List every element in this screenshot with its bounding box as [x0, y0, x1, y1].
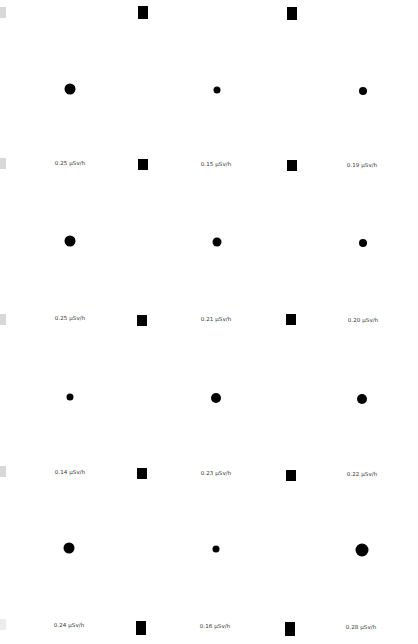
square-marker [137, 468, 147, 479]
dose-dot [64, 543, 75, 554]
dose-label: 0.15 µSv/h [201, 161, 232, 167]
dose-label: 0.14 µSv/h [55, 469, 86, 475]
dose-label: 0.23 µSv/h [201, 470, 232, 476]
dose-label: 0.16 µSv/h [200, 623, 231, 629]
dose-label: 0.22 µSv/h [347, 471, 378, 477]
dose-label: 0.25 µSv/h [55, 315, 86, 321]
dose-dot [67, 394, 74, 401]
edge-mark [0, 7, 6, 18]
edge-mark [0, 158, 6, 169]
dose-label: 0.28 µSv/h [346, 624, 377, 630]
dose-label: 0.21 µSv/h [201, 316, 232, 322]
edge-mark [0, 314, 6, 325]
square-marker [136, 621, 146, 635]
dose-label: 0.25 µSv/h [55, 160, 86, 166]
dose-label: 0.20 µSv/h [348, 317, 379, 323]
dose-dot [357, 394, 367, 404]
dose-dot [213, 238, 222, 247]
dose-label: 0.19 µSv/h [347, 162, 378, 168]
dose-dot [356, 544, 369, 557]
dose-dot [65, 236, 76, 247]
square-marker [286, 314, 296, 325]
dose-label: 0.24 µSv/h [54, 622, 85, 628]
dose-dot [359, 87, 367, 95]
square-marker [287, 160, 297, 171]
square-marker [138, 6, 148, 19]
dose-dot [65, 84, 76, 95]
square-marker [138, 159, 148, 170]
dose-dot [359, 239, 367, 247]
square-marker [137, 315, 147, 326]
dose-dot [213, 546, 220, 553]
square-marker [287, 7, 297, 20]
edge-mark [0, 619, 6, 630]
square-marker [286, 470, 296, 481]
square-marker [285, 622, 295, 636]
edge-mark [0, 466, 6, 477]
dose-dot [214, 87, 221, 94]
dose-dot [211, 393, 221, 403]
